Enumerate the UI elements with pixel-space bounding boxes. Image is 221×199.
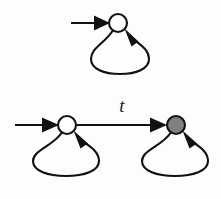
initial-arrow-lower-head bbox=[42, 118, 59, 133]
self-loop-lower-right bbox=[142, 131, 208, 177]
transition-t[interactable]: t bbox=[76, 95, 167, 133]
self-loop-lower-right-head bbox=[183, 131, 198, 149]
state-lower-initial[interactable] bbox=[58, 116, 76, 134]
upper-automaton bbox=[71, 14, 149, 74]
automata-canvas: t bbox=[0, 0, 221, 199]
transition-t-label: t bbox=[119, 95, 125, 116]
self-loop-lower-right-path bbox=[142, 133, 208, 176]
initial-arrow-upper-head bbox=[94, 16, 110, 31]
self-loop-upper bbox=[91, 29, 149, 75]
self-loop-lower-left bbox=[33, 131, 99, 177]
state-upper-initial[interactable] bbox=[109, 14, 127, 32]
lower-automaton: t bbox=[15, 95, 208, 176]
state-lower-target[interactable] bbox=[167, 116, 185, 134]
self-loop-lower-left-head bbox=[74, 131, 89, 149]
self-loop-lower-left-path bbox=[33, 133, 99, 176]
initial-arrow-upper bbox=[71, 16, 110, 31]
self-loop-upper-path bbox=[91, 31, 149, 74]
initial-arrow-lower bbox=[15, 118, 59, 133]
transition-t-head bbox=[150, 118, 167, 133]
state-diagram-figure: t bbox=[0, 0, 221, 199]
self-loop-upper-head bbox=[125, 29, 139, 47]
